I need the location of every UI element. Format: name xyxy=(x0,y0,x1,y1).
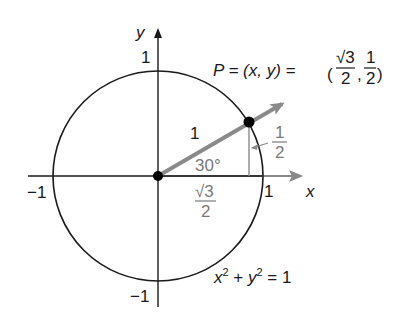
point-y-den: 2 xyxy=(366,69,375,88)
radius-label: 1 xyxy=(190,124,199,143)
point-x-den: 2 xyxy=(341,69,350,88)
adjacent-num: √3 xyxy=(195,182,214,201)
y-tick-1: 1 xyxy=(141,48,150,67)
paren-open: ( xyxy=(327,65,333,84)
adjacent-den: 2 xyxy=(201,202,210,221)
origin-point xyxy=(153,171,163,181)
opposite-num: 1 xyxy=(275,123,284,142)
x-tick-neg-1: −1 xyxy=(27,183,46,202)
comma: , xyxy=(357,65,362,84)
opposite-den: 2 xyxy=(275,143,284,162)
unit-circle-diagram: y 1 −1 1 x −1 P = (x, y) = ( √3 2 , 1 2 … xyxy=(0,0,395,312)
point-p-label: P = (x, y) = xyxy=(213,61,296,80)
point-y-num: 1 xyxy=(366,48,375,67)
paren-close: ) xyxy=(377,65,383,84)
x-tick-1: 1 xyxy=(264,182,273,201)
x-axis-label: x xyxy=(305,182,315,201)
angle-label: 30° xyxy=(195,156,221,175)
point-p xyxy=(244,117,255,128)
y-axis-label: y xyxy=(135,23,146,42)
circle-equation: x2 + y2 = 1 xyxy=(213,266,291,287)
y-tick-neg-1: −1 xyxy=(130,287,149,306)
point-x-num: √3 xyxy=(336,48,355,67)
